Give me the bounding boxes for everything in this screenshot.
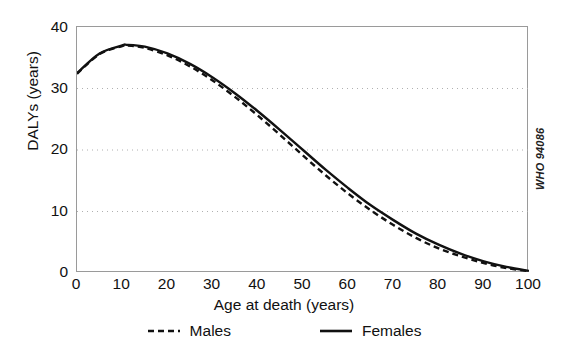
x-tick-label-70: 70: [372, 276, 412, 292]
x-tick-label-100: 100: [508, 276, 548, 292]
x-tick-label-0: 0: [56, 276, 96, 292]
y-tick-label-20: 20: [51, 141, 68, 157]
x-tick-label-80: 80: [418, 276, 458, 292]
legend-label-males: Males: [190, 322, 231, 340]
x-tick-label-50: 50: [282, 276, 322, 292]
y-tick-label-10: 10: [51, 203, 68, 219]
y-tick-label-40: 40: [51, 19, 68, 35]
series-line-males: [77, 45, 529, 271]
chart-figure: 40 30 20 10 0 DALYs (years) 010203040506…: [0, 0, 568, 347]
solid-line-icon: [319, 326, 353, 336]
x-tick-label-20: 20: [146, 276, 186, 292]
dashed-line-icon: [147, 326, 181, 336]
series-line-females: [77, 45, 529, 271]
legend-label-females: Females: [362, 322, 421, 340]
x-tick-label-40: 40: [237, 276, 277, 292]
y-axis-title: DALYs (years): [24, 6, 42, 196]
x-axis-title: Age at death (years): [0, 296, 568, 314]
x-tick-label-30: 30: [192, 276, 232, 292]
y-tick-label-30: 30: [51, 80, 68, 96]
legend-item-females: Females: [319, 322, 421, 340]
plot-area: [76, 26, 528, 272]
legend: Males Females: [0, 322, 568, 340]
x-tick-label-10: 10: [101, 276, 141, 292]
x-tick-label-60: 60: [327, 276, 367, 292]
who-code-label: WHO 94086: [534, 128, 546, 190]
legend-item-males: Males: [147, 322, 231, 340]
plot-canvas: [77, 27, 529, 273]
x-tick-label-90: 90: [463, 276, 503, 292]
